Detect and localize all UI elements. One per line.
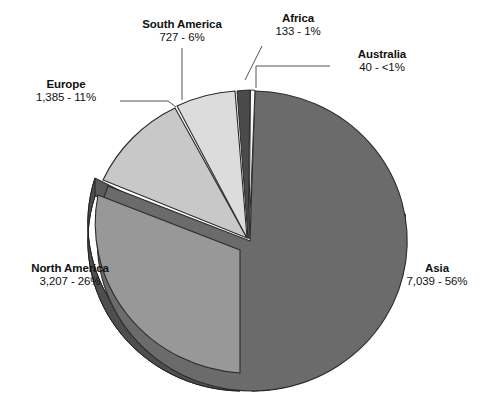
slice-label-value: 1,385 - 11% [6, 91, 126, 104]
slice-label-south-america: South America 727 - 6% [122, 18, 242, 44]
slice-label-africa: Africa 133 - 1% [250, 12, 346, 38]
slice-label-value: 727 - 6% [122, 31, 242, 44]
slice-label-value: 133 - 1% [250, 25, 346, 38]
africa-leader-line [245, 46, 262, 80]
slice-label-name: Europe [6, 78, 126, 91]
slice-label-name: North America [2, 262, 138, 275]
slice-label-australia: Australia 40 - <1% [330, 48, 434, 74]
slice-label-name: Australia [330, 48, 434, 61]
pie-chart-figure: South America 727 - 6% Africa 133 - 1% A… [0, 0, 489, 400]
slice-label-value: 7,039 - 56% [388, 275, 486, 288]
slice-label-name: Africa [250, 12, 346, 25]
slice-label-value: 40 - <1% [330, 61, 434, 74]
slice-label-name: South America [122, 18, 242, 31]
slice-label-europe: Europe 1,385 - 11% [6, 78, 126, 104]
slice-label-north-america: North America 3,207 - 26% [2, 262, 138, 288]
slice-label-asia: Asia 7,039 - 56% [388, 262, 486, 288]
slice-label-name: Asia [388, 262, 486, 275]
pie-top-layer [95, 90, 407, 391]
slice-label-value: 3,207 - 26% [2, 275, 138, 288]
europe-leader-drop [168, 101, 176, 107]
